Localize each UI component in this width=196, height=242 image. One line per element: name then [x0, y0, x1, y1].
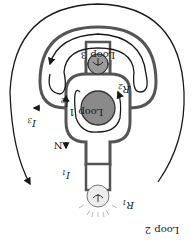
bulb-r1-icon	[79, 164, 117, 217]
r1-label: R1	[122, 198, 135, 211]
i1-label: I1	[62, 168, 71, 181]
circuit-diagram: Loop 3 Loop 1 Loop 2 N I1 I2 I3 R2 R1	[0, 0, 196, 242]
svg-text:I1: I1	[62, 168, 71, 181]
loop2-label: Loop 2	[145, 225, 180, 236]
svg-text:R1: R1	[122, 198, 135, 211]
loop3-label: Loop 3	[81, 50, 116, 61]
node-label: N	[53, 140, 62, 151]
i3-label: I3	[27, 116, 37, 129]
svg-text:I3: I3	[27, 116, 37, 129]
loop1-label: Loop 1	[69, 107, 104, 118]
